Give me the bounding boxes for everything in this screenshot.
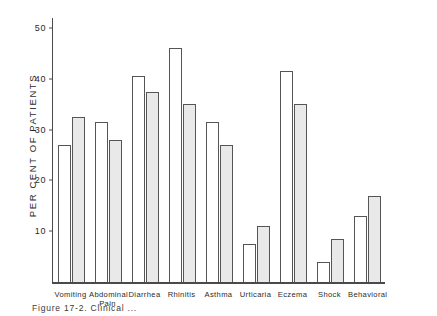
bar-group [206,18,233,282]
y-axis-line [52,18,53,283]
plot-area: 1020304050 VomitingAbdominal PainDiarrhe… [52,18,385,283]
y-tick-label: 50 [35,23,46,33]
bar-group [354,18,381,282]
bar-open [243,244,256,282]
bar-shaded [183,104,196,282]
figure-bar-chart: PER CENT OF PATIENTS 1020304050 Vomiting… [0,0,437,316]
bar-open [280,71,293,282]
bar-shaded [331,239,344,282]
bar-open [58,145,71,282]
bar-group [243,18,270,282]
y-tick-mark [49,180,52,181]
bar-open [354,216,367,282]
bar-shaded [220,145,233,282]
bar-shaded [257,226,270,282]
bar-shaded [368,196,381,282]
bar-open [169,48,182,282]
y-tick-mark [49,129,52,130]
bar-group [132,18,159,282]
figure-caption: Figure 17-2. Clinical ... [32,303,137,313]
x-axis-line [52,282,385,284]
y-tick-label: 10 [35,226,46,236]
bar-open [95,122,108,282]
bar-group [317,18,344,282]
y-axis-title: PER CENT OF PATIENTS [27,36,38,256]
y-tick-label: 30 [35,125,46,135]
bar-group [280,18,307,282]
bar-shaded [294,104,307,282]
y-tick-mark [49,28,52,29]
x-tick-label: Shock [311,290,348,299]
x-tick-label: Behavioral [348,290,385,299]
bar-group [169,18,196,282]
bar-group [95,18,122,282]
y-tick-mark [49,231,52,232]
x-tick-label: Vomiting [52,290,89,299]
y-tick-label: 40 [35,74,46,84]
x-tick-label: Diarrhea [126,290,163,299]
bar-group [58,18,85,282]
x-tick-label: Urticaria [237,290,274,299]
y-tick-label: 20 [35,175,46,185]
bar-shaded [146,92,159,282]
x-tick-label: Asthma [200,290,237,299]
bar-open [132,76,145,282]
x-tick-label: Rhinitis [163,290,200,299]
y-tick-mark [49,78,52,79]
bar-shaded [109,140,122,282]
x-tick-label: Eczema [274,290,311,299]
bar-open [206,122,219,282]
bar-shaded [72,117,85,282]
bar-open [317,262,330,282]
